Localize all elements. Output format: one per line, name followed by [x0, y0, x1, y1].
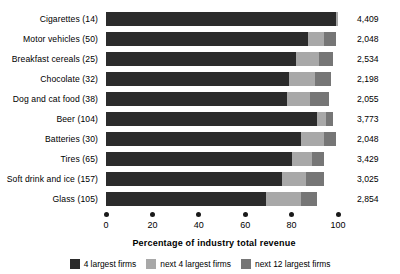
tick-dot-icon [196, 212, 201, 217]
row-value: 2,534 [357, 52, 379, 66]
bar-segment [308, 32, 324, 46]
category-label: Tires (65) [61, 152, 98, 166]
bar-segment [326, 112, 333, 126]
bar-segment [282, 172, 305, 186]
stacked-bar [106, 132, 336, 146]
chart-root: Cigarettes (14)4,409Motor vehicles (50)2… [0, 0, 400, 274]
stacked-bar [106, 52, 333, 66]
row-value: 2,055 [357, 92, 379, 106]
legend-label: next 12 largest firms [255, 259, 330, 270]
bar-segment [266, 192, 301, 206]
row-value: 2,048 [357, 132, 379, 146]
x-axis-tick-label: 0 [86, 219, 126, 231]
chart-row: Tires (65)3,429 [0, 152, 400, 172]
x-axis: 020406080100 [0, 212, 400, 240]
x-axis-tick-label: 80 [272, 219, 312, 231]
legend-label: 4 largest firms [84, 259, 137, 270]
bar-segment [106, 32, 308, 46]
category-label: Beer (104) [56, 112, 98, 126]
bar-segment [106, 172, 282, 186]
bar-segment [289, 72, 315, 86]
chart-row: Motor vehicles (50)2,048 [0, 32, 400, 52]
bar-segment [106, 12, 336, 26]
tick-dot-icon [104, 212, 109, 217]
x-axis-tick-label: 40 [179, 219, 219, 231]
stacked-bar [106, 12, 338, 26]
row-value: 3,025 [357, 172, 379, 186]
bar-segment [306, 172, 325, 186]
category-label: Soft drink and ice (157) [7, 172, 98, 186]
bar-segment [106, 152, 292, 166]
chart-row: Breakfast cereals (25)2,534 [0, 52, 400, 72]
bar-segment [319, 52, 333, 66]
chart-row: Dog and cat food (38)2,055 [0, 92, 400, 112]
legend-swatch-icon [70, 259, 80, 269]
x-axis-tick-label: 60 [225, 219, 265, 231]
bar-segment [292, 152, 313, 166]
stacked-bar [106, 172, 324, 186]
chart-row: Soft drink and ice (157)3,025 [0, 172, 400, 192]
row-value: 4,409 [357, 12, 379, 26]
bar-segment [315, 72, 331, 86]
legend-swatch-icon [146, 259, 156, 269]
category-label: Batteries (30) [45, 132, 98, 146]
bar-segment [301, 132, 324, 146]
chart-row: Beer (104)3,773 [0, 112, 400, 132]
bar-segment [296, 52, 319, 66]
x-axis-tick-label: 100 [318, 219, 358, 231]
tick-dot-icon [150, 212, 155, 217]
category-label: Cigarettes (14) [40, 12, 98, 26]
stacked-bar [106, 72, 331, 86]
bar-segment [324, 132, 336, 146]
tick-dot-icon [243, 212, 248, 217]
row-value: 3,429 [357, 152, 379, 166]
category-label: Glass (105) [52, 192, 98, 206]
chart-row: Batteries (30)2,048 [0, 132, 400, 152]
chart-legend: 4 largest firmsnext 4 largest firmsnext … [0, 256, 400, 272]
stacked-bar [106, 192, 317, 206]
tick-dot-icon [289, 212, 294, 217]
legend-label: next 4 largest firms [160, 259, 231, 270]
bar-segment [324, 32, 336, 46]
bar-segment [310, 92, 329, 106]
chart-row: Glass (105)2,854 [0, 192, 400, 212]
chart-row: Cigarettes (14)4,409 [0, 12, 400, 32]
bar-segment [336, 12, 338, 26]
bar-segment [301, 192, 317, 206]
legend-swatch-icon [241, 259, 251, 269]
legend-item: 4 largest firms [70, 259, 137, 270]
bar-segment [106, 192, 266, 206]
bar-segment [106, 112, 317, 126]
legend-item: next 12 largest firms [241, 259, 330, 270]
stacked-bar [106, 112, 333, 126]
bar-segment [106, 132, 301, 146]
bar-segment [317, 112, 326, 126]
bar-segment [312, 152, 324, 166]
x-axis-tick-label: 20 [132, 219, 172, 231]
category-label: Breakfast cereals (25) [12, 52, 98, 66]
chart-row: Chocolate (32)2,198 [0, 72, 400, 92]
bar-segment [106, 72, 289, 86]
row-value: 2,198 [357, 72, 379, 86]
tick-dot-icon [336, 212, 341, 217]
category-label: Chocolate (32) [40, 72, 98, 86]
x-axis-title: Percentage of industry total revenue [0, 238, 400, 248]
category-label: Motor vehicles (50) [23, 32, 98, 46]
row-value: 2,854 [357, 192, 379, 206]
stacked-bar [106, 32, 336, 46]
bar-segment [287, 92, 310, 106]
row-value: 3,773 [357, 112, 379, 126]
stacked-bar [106, 92, 329, 106]
stacked-bar [106, 152, 324, 166]
legend-item: next 4 largest firms [146, 259, 231, 270]
bar-segment [106, 52, 296, 66]
category-label: Dog and cat food (38) [13, 92, 98, 106]
row-value: 2,048 [357, 32, 379, 46]
bar-segment [106, 92, 287, 106]
